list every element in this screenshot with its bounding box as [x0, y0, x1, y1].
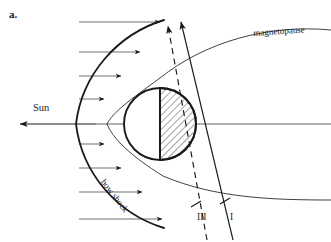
diagram-canvas	[0, 0, 331, 242]
trajectory-one-label: I	[230, 213, 233, 223]
magnetosphere-figure: a. Sun magnetopause bow shock III I	[0, 0, 331, 242]
trajectory-three-label: III	[197, 213, 207, 223]
trajectory-three-crossing-tick	[191, 201, 201, 207]
panel-label: a.	[9, 9, 17, 20]
planet-night-side-hatch	[160, 88, 196, 160]
sun-label: Sun	[33, 103, 49, 114]
trajectory-one-crossing-tick	[220, 198, 230, 204]
